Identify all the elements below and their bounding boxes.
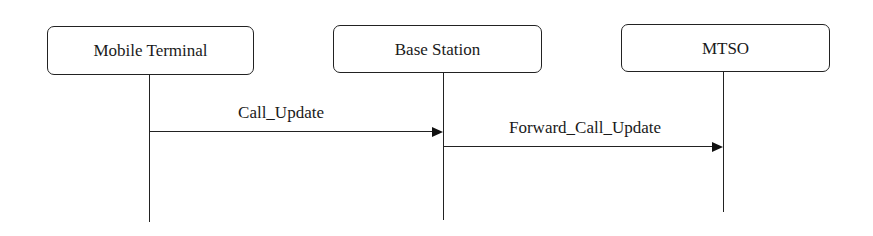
lifeline-mtso — [723, 72, 724, 212]
message-label-forward-call-update: Forward_Call_Update — [509, 119, 661, 136]
message-arrow-call-update — [150, 131, 433, 132]
arrowhead-icon — [712, 142, 723, 152]
lifeline-mobile-terminal — [149, 75, 150, 222]
participant-mobile-terminal: Mobile Terminal — [47, 26, 254, 75]
participant-label: Mobile Terminal — [93, 42, 207, 59]
participant-base-station: Base Station — [333, 25, 542, 73]
participant-label: Base Station — [395, 41, 480, 58]
arrowhead-icon — [432, 127, 443, 137]
message-arrow-forward-call-update — [444, 146, 713, 147]
sequence-diagram: Mobile Terminal Base Station MTSO Call_U… — [0, 0, 873, 236]
participant-mtso: MTSO — [621, 24, 830, 72]
participant-label: MTSO — [702, 40, 749, 57]
message-label-call-update: Call_Update — [238, 104, 324, 121]
